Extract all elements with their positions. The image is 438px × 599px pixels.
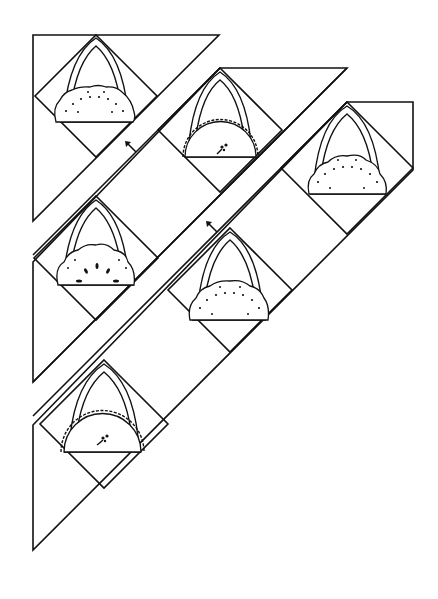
basket-block-3 — [34, 196, 158, 320]
arrow-up-left-icon — [206, 221, 217, 232]
basket-block-4 — [281, 102, 413, 234]
basket-block-2 — [158, 68, 282, 192]
basket-block-6 — [40, 360, 168, 488]
quilt-diagram: Basket block quilt layout (diagonal set … — [0, 0, 438, 599]
basket-block-1 — [35, 35, 157, 157]
quilt-diagram-canvas — [0, 0, 438, 599]
arrow-up-left-icon — [125, 141, 136, 152]
basket-block-5 — [168, 228, 292, 352]
